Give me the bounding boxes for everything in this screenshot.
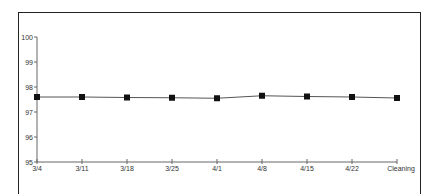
x-tick-label: 4/22	[345, 165, 359, 172]
x-tick-label: 4/8	[257, 165, 267, 172]
data-point-square	[169, 95, 175, 101]
data-point-square	[214, 95, 220, 101]
data-point-square	[304, 94, 310, 100]
data-point-square	[394, 95, 400, 101]
data-series	[34, 93, 400, 102]
x-tick-label: 4/15	[300, 165, 314, 172]
data-point-square	[259, 93, 265, 99]
y-tick-label: 99	[25, 59, 33, 66]
x-tick-label: Cleaning	[387, 165, 415, 173]
x-tick-label: 3/25	[165, 165, 179, 172]
x-axis-labels: 3/43/113/183/254/14/84/154/22Cleaning	[32, 165, 415, 173]
x-tick-label: 3/11	[75, 165, 88, 172]
x-tick-label: 3/4	[32, 165, 42, 172]
data-point-square	[34, 94, 40, 100]
line-chart: 9596979899100 3/43/113/183/254/14/84/154…	[0, 0, 431, 194]
data-point-square	[349, 94, 355, 100]
x-tick-label: 4/1	[212, 165, 222, 172]
y-tick-label: 100	[21, 34, 33, 41]
x-tick-label: 3/18	[120, 165, 134, 172]
data-point-square	[124, 95, 130, 101]
y-tick-label: 97	[25, 109, 33, 116]
data-point-square	[79, 94, 85, 100]
y-tick-label: 98	[25, 84, 33, 91]
y-axis-labels: 9596979899100	[21, 34, 33, 166]
y-tick-label: 96	[25, 134, 33, 141]
